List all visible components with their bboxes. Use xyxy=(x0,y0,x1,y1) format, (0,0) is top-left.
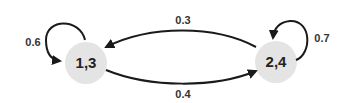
edge-2-4-to-1-3: 0.3 xyxy=(106,14,256,47)
node-1-3: 1,3 xyxy=(65,42,107,84)
edge-label-0-7: 0.7 xyxy=(314,32,329,44)
node-2-4-label: 2,4 xyxy=(266,53,288,70)
state-diagram: 1,3 2,4 0.6 0.3 0.4 0.7 xyxy=(0,0,346,103)
edge-1-3-to-2-4: 0.4 xyxy=(106,70,256,100)
edge-label-0-4: 0.4 xyxy=(175,88,191,100)
arrow-2-4-to-1-3 xyxy=(106,31,256,48)
edge-label-0-3: 0.3 xyxy=(175,14,190,26)
arrow-1-3-to-2-4 xyxy=(106,70,256,84)
node-2-4: 2,4 xyxy=(255,41,297,83)
node-1-3-label: 1,3 xyxy=(76,54,97,71)
edge-label-0-6: 0.6 xyxy=(25,36,40,48)
